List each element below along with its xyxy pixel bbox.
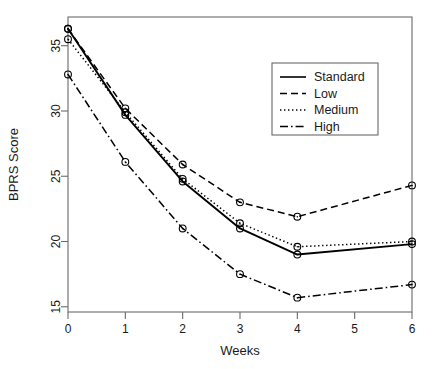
x-axis-tick-label: 1 — [122, 322, 129, 336]
data-point-center — [297, 216, 299, 218]
x-axis-tick-label: 6 — [409, 322, 416, 336]
data-point-center — [125, 161, 127, 163]
data-point-center — [182, 164, 184, 166]
x-axis-tick-label: 4 — [294, 322, 301, 336]
y-axis-tick-label: 15 — [49, 300, 63, 314]
data-point-center — [67, 38, 69, 40]
legend-label-high: High — [314, 120, 340, 134]
plot-area: 15202530350123456WeeksBPRS ScoreStandard… — [0, 0, 434, 369]
data-point-center — [297, 246, 299, 248]
legend: StandardLowMediumHigh — [272, 63, 378, 135]
data-point-center — [239, 273, 241, 275]
data-point-center — [297, 297, 299, 299]
y-axis-tick-label: 25 — [49, 169, 63, 183]
data-point-center — [239, 228, 241, 230]
x-axis-tick-label: 2 — [179, 322, 186, 336]
data-point-center — [411, 185, 413, 187]
legend-label-medium: Medium — [314, 103, 358, 117]
data-point-center — [297, 254, 299, 256]
y-axis-tick-label: 20 — [49, 235, 63, 249]
data-point-center — [411, 284, 413, 286]
data-point-center — [182, 178, 184, 180]
x-axis-tick-label: 5 — [351, 322, 358, 336]
bprs-score-line-chart: 15202530350123456WeeksBPRS ScoreStandard… — [0, 0, 434, 369]
x-axis-title: Weeks — [220, 343, 260, 358]
data-point-center — [239, 222, 241, 224]
data-point-center — [239, 202, 241, 204]
plot-frame — [68, 17, 412, 312]
legend-label-low: Low — [314, 87, 338, 101]
legend-label-standard: Standard — [314, 70, 365, 84]
y-axis-tick-label: 30 — [49, 104, 63, 118]
data-point-center — [67, 74, 69, 76]
data-point-center — [411, 241, 413, 243]
x-axis-tick-label: 0 — [65, 322, 72, 336]
data-point-center — [125, 112, 127, 114]
y-axis-title: BPRS Score — [6, 128, 21, 201]
data-point-center — [182, 228, 184, 230]
x-axis-tick-label: 3 — [237, 322, 244, 336]
y-axis-tick-label: 35 — [49, 39, 63, 53]
data-point-center — [67, 28, 69, 30]
